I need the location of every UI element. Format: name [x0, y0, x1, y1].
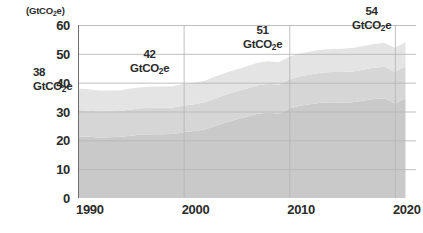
annotation-1990-unit: GtCO2e [33, 80, 72, 94]
y-axis-tick-20: 20 [26, 133, 70, 148]
annotation-2000: 42GtCO2e [130, 48, 169, 75]
annotation-2010: 51GtCO2e [243, 24, 282, 51]
annotation-2000-unit: GtCO2e [130, 62, 169, 76]
x-axis-tick-2000: 2000 [182, 202, 210, 217]
annotation-2020-value: 54 [352, 5, 391, 19]
x-axis-tick-2010: 2010 [287, 202, 315, 217]
x-axis-tick-2020: 2020 [393, 202, 421, 217]
y-axis-tick-60: 60 [26, 18, 70, 33]
annotation-1990-value: 38 [33, 66, 72, 80]
annotation-2010-value: 51 [243, 24, 282, 38]
x-axis-tick-1990: 1990 [76, 202, 104, 217]
y-axis-tick-group: 0102030405060 [22, 0, 70, 233]
annotation-2010-unit: GtCO2e [243, 38, 282, 52]
y-axis-tick-50: 50 [26, 46, 70, 61]
annotation-2020-unit: GtCO2e [352, 19, 391, 33]
annotation-2000-value: 42 [130, 48, 169, 62]
annotation-2020: 54GtCO2e [352, 5, 391, 32]
y-axis-tick-0: 0 [26, 191, 70, 206]
y-axis-tick-10: 10 [26, 162, 70, 177]
y-axis-tick-30: 30 [26, 104, 70, 119]
annotation-1990: 38GtCO2e [33, 66, 72, 93]
emissions-area-chart: (GtCO2e) 0102030405060 1990200020102020 … [0, 0, 423, 233]
